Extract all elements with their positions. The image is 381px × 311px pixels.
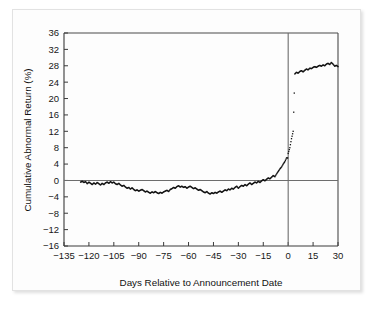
y-tick-label: 20 [48,93,59,104]
data-point [285,160,286,161]
data-point [291,138,292,139]
x-tick-label: −30 [230,250,246,261]
axis-tick-marks [64,33,338,246]
y-tick-label: −8 [48,208,59,219]
y-tick-label: 24 [48,77,59,88]
x-tick-label: −15 [255,250,271,261]
data-point [288,153,289,154]
x-tick-label: −120 [78,250,99,261]
data-point [285,159,286,160]
y-tick-label: 12 [48,126,59,137]
x-tick-label: −60 [180,250,196,261]
x-tick-label: −45 [205,250,221,261]
y-axis-tick-labels: −16−12−8−404812162024283236 [43,27,59,251]
cumulative-abnormal-return-chart: −135−120−105−90−75−60−45−30−1501530 −16−… [0,0,381,311]
data-points-layer [80,62,339,195]
x-tick-label: −75 [156,250,172,261]
data-point [293,131,294,132]
data-point [293,112,294,113]
reference-lines [64,33,338,246]
data-point [291,136,292,137]
x-tick-label: −105 [103,250,124,261]
data-point [292,133,293,134]
y-tick-label: 4 [54,158,59,169]
y-tick-label: −4 [48,191,59,202]
data-point [294,92,295,93]
x-tick-label: 0 [286,250,291,261]
data-point [290,144,291,145]
x-axis-title: Days Relative to Announcement Date [120,277,283,288]
y-tick-label: 32 [48,44,59,55]
x-tick-label: 15 [308,250,319,261]
y-tick-label: 16 [48,109,59,120]
y-tick-label: 36 [48,27,59,38]
chart-container: −135−120−105−90−75−60−45−30−1501530 −16−… [0,0,381,311]
y-tick-label: −16 [43,240,59,251]
x-axis-tick-labels: −135−120−105−90−75−60−45−30−1501530 [53,250,343,261]
data-point [287,157,288,158]
data-point [289,149,290,150]
x-tick-label: −90 [131,250,147,261]
x-tick-label: −135 [53,250,74,261]
y-tick-label: 8 [54,142,59,153]
x-tick-label: 30 [333,250,344,261]
data-point [289,147,290,148]
data-point [288,151,289,152]
y-tick-label: −12 [43,224,59,235]
data-point [284,161,285,162]
data-point [337,66,338,67]
data-point [290,141,291,142]
y-tick-label: 28 [48,60,59,71]
plot-frame [64,33,338,246]
y-tick-label: 0 [54,175,59,186]
y-axis-title: Cumulative Abnormal Return (%) [22,68,33,211]
